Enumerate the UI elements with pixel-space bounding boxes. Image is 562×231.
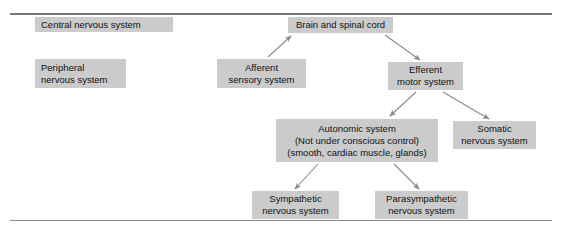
box-line: Brain and spinal cord [296,19,385,31]
box-line: Central nervous system [41,19,141,31]
box-line: nervous system [262,205,329,217]
box-somatic-nervous-system: Somatic nervous system [453,121,536,149]
box-line: motor system [397,76,454,88]
arrow-brain-to-efferent [385,35,420,60]
box-line: Afferent [245,62,278,74]
box-peripheral-nervous-system: Peripheral nervous system [35,59,126,88]
box-autonomic-system: Autonomic system (Not under conscious co… [276,119,438,162]
box-line: nervous system [388,205,455,217]
nervous-system-diagram: Central nervous system Peripheral nervou… [0,0,562,231]
box-line: nervous system [461,135,528,147]
arrow-efferent-to-autonomic [390,92,416,116]
arrow-autonomic-to-sympathetic [295,164,318,189]
box-line: (Not under conscious control) [295,135,419,147]
box-line: Efferent [409,64,442,76]
box-afferent-sensory-system: Afferent sensory system [217,59,306,88]
box-parasympathetic-nervous-system: Parasympathetic nervous system [375,191,468,219]
box-line: Peripheral [41,62,84,74]
arrow-autonomic-to-parasympathetic [394,164,419,189]
box-sympathetic-nervous-system: Sympathetic nervous system [252,191,339,219]
box-central-nervous-system: Central nervous system [35,17,173,32]
box-line: Sympathetic [269,193,321,205]
arrow-afferent-to-brain [268,36,291,57]
box-line: Somatic [477,123,511,135]
arrow-efferent-to-somatic [443,92,489,119]
box-line: (smooth, cardiac muscle, glands) [287,147,426,159]
box-brain-and-spinal-cord: Brain and spinal cord [288,17,393,33]
box-line: Autonomic system [318,123,396,135]
box-line: nervous system [41,74,108,86]
box-line: sensory system [229,74,295,86]
box-efferent-motor-system: Efferent motor system [388,62,463,90]
box-line: Parasympathetic [386,193,457,205]
